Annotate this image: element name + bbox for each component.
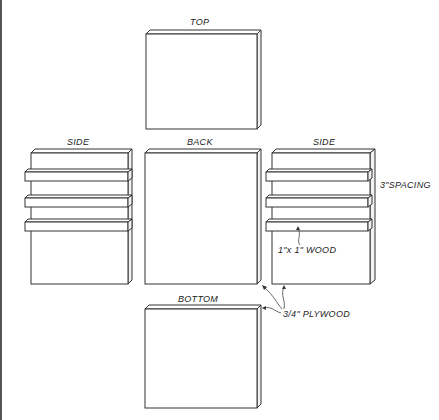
- left-side-panel: [25, 149, 132, 284]
- top-panel: [146, 30, 261, 129]
- plywood-arrow-bottom: [262, 306, 266, 310]
- exploded-box-diagram: TOP SIDE BACK: [0, 0, 439, 420]
- back-panel: [145, 149, 261, 284]
- left-side-label: SIDE: [67, 137, 90, 147]
- wood-annotation: 1"x 1" WOOD: [278, 245, 336, 255]
- bottom-label: BOTTOM: [178, 294, 218, 304]
- plywood-annotation: 3/4" PLYWOOD: [283, 309, 350, 319]
- plywood-leader-back: [264, 287, 282, 309]
- spacing-annotation: 3"SPACING: [380, 180, 431, 190]
- top-label: TOP: [190, 17, 209, 27]
- plywood-arrow-side: [282, 285, 286, 289]
- plywood-leader-side: [283, 287, 285, 309]
- bottom-panel: [145, 305, 261, 408]
- back-label: BACK: [187, 137, 213, 147]
- left-shelf-strips: [25, 169, 132, 231]
- right-side-panel: [266, 149, 375, 284]
- right-shelf-strips: [266, 169, 372, 231]
- right-side-label: SIDE: [313, 137, 336, 147]
